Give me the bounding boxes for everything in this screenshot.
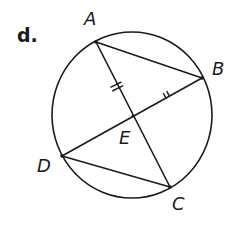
point-label-e: E bbox=[119, 129, 130, 147]
point-b-dot bbox=[200, 76, 204, 80]
segment-dc bbox=[62, 156, 170, 187]
segment-bd bbox=[62, 78, 202, 156]
point-a-dot bbox=[94, 40, 98, 44]
problem-label: d. bbox=[17, 26, 38, 45]
point-label-c: C bbox=[172, 195, 185, 213]
circle-diagram: d. A B C D E bbox=[0, 0, 237, 234]
point-e-dot bbox=[132, 115, 135, 118]
point-label-a: A bbox=[84, 10, 96, 28]
point-d-dot bbox=[60, 154, 64, 158]
point-label-b: B bbox=[212, 60, 224, 78]
point-c-dot bbox=[168, 185, 172, 189]
circle bbox=[52, 32, 212, 198]
point-label-d: D bbox=[37, 157, 51, 175]
